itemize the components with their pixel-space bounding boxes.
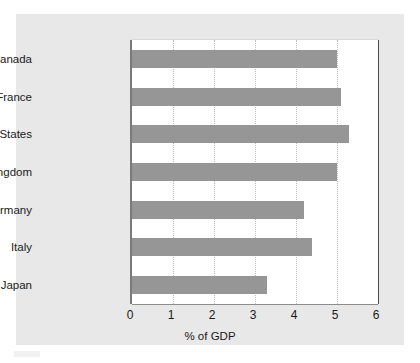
x-tick-label: 0 — [115, 308, 145, 322]
x-tick-label: 1 — [156, 308, 186, 322]
x-tick-label: 3 — [238, 308, 268, 322]
bar-row — [132, 88, 378, 106]
bar — [132, 88, 341, 106]
plot-area — [130, 40, 379, 304]
category-label: Japan — [0, 279, 32, 291]
chart-figure-panel: CanadaFranceUnited StatesUnited KingdomG… — [16, 14, 404, 345]
bar — [132, 50, 337, 68]
bar — [132, 163, 337, 181]
category-label: Italy — [0, 241, 32, 253]
category-label: Germany — [0, 204, 32, 216]
x-tick-label: 2 — [197, 308, 227, 322]
bar — [132, 276, 267, 294]
x-tick-label: 4 — [279, 308, 309, 322]
x-tick-label: 5 — [320, 308, 350, 322]
bar-row — [132, 276, 378, 294]
x-axis-title: % of GDP — [16, 330, 404, 342]
bar-row — [132, 163, 378, 181]
x-tick-label: 6 — [361, 308, 391, 322]
category-label: United States — [0, 128, 32, 140]
bar — [132, 201, 304, 219]
category-label: United Kingdom — [0, 166, 32, 178]
bar-row — [132, 238, 378, 256]
bar — [132, 238, 312, 256]
plot-bottom-edge — [132, 304, 378, 305]
bar-row — [132, 201, 378, 219]
bar-row — [132, 125, 378, 143]
bar — [132, 125, 349, 143]
category-label: France — [0, 91, 32, 103]
page-edge-artifact — [14, 351, 40, 357]
category-label: Canada — [0, 53, 32, 65]
bar-row — [132, 50, 378, 68]
